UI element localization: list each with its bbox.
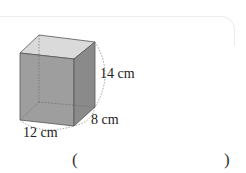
width-label: 12 cm: [23, 126, 58, 140]
height-label: 14 cm: [100, 67, 135, 81]
answer-open-paren: (: [72, 151, 78, 168]
prism-diagram: [0, 0, 246, 173]
answer-close-paren: ): [224, 151, 230, 168]
answer-blank[interactable]: [104, 151, 214, 169]
front-face: [20, 53, 74, 126]
depth-label: 8 cm: [91, 113, 119, 127]
